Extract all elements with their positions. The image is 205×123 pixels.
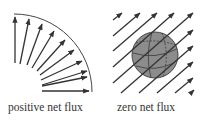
positive-flux-panel (14, 14, 92, 92)
caption-positive-net-flux: positive net flux (8, 101, 83, 113)
flux-diagram (0, 0, 205, 100)
zero-flux-panel (113, 13, 194, 93)
caption-zero-net-flux: zero net flux (117, 101, 175, 113)
outward-arrows (15, 17, 89, 91)
closed-sphere (132, 32, 178, 78)
